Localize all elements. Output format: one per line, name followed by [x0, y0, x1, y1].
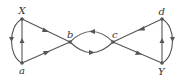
graph-diagram: X a b c d Y	[0, 0, 182, 82]
arrow-right-icon	[43, 51, 50, 56]
arrow-right-icon	[138, 26, 145, 31]
node-b	[68, 40, 72, 44]
labels: X a b c d Y	[18, 5, 167, 77]
edge-c-d	[113, 19, 162, 42]
label-d: d	[159, 6, 165, 17]
node-c	[111, 40, 115, 44]
arrow-right-icon	[89, 50, 95, 55]
arrow-down-icon	[170, 37, 175, 42]
arrow-up-icon	[160, 38, 165, 43]
arrow-right-icon	[42, 28, 49, 33]
arrow-down-icon	[9, 37, 14, 42]
edge-b-c	[70, 42, 113, 53]
arrow-up-icon	[20, 38, 25, 43]
label-X: X	[18, 5, 27, 16]
label-c: c	[112, 29, 118, 40]
node-X	[20, 17, 24, 21]
edge-d-Y	[162, 19, 173, 63]
label-b: b	[67, 29, 73, 40]
label-a: a	[19, 65, 25, 76]
nodes	[20, 17, 164, 65]
edge-X-a	[12, 19, 23, 63]
node-d	[160, 17, 164, 21]
arrow-left-icon	[89, 29, 95, 34]
node-Y	[160, 61, 164, 65]
arrow-right-icon	[135, 51, 142, 56]
edges	[9, 19, 175, 63]
edge-c-b	[70, 32, 113, 43]
label-Y: Y	[158, 66, 166, 77]
